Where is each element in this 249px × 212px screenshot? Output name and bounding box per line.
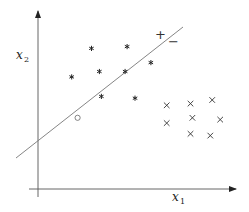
x-axis-label: x 1: [172, 190, 185, 206]
classifier-diagram: + − x 2 x 1: [0, 0, 249, 212]
x-axis-label-base: x: [172, 190, 179, 204]
positive-point-3: [69, 74, 74, 79]
negative-point-5: [217, 117, 223, 123]
query-point-0: [75, 115, 80, 120]
negative-point-4: [190, 115, 196, 121]
decision-boundary: [16, 27, 183, 158]
plot-canvas: + − x 2 x 1: [0, 0, 249, 212]
positive-point-6: [99, 94, 104, 99]
negative-point-7: [208, 133, 214, 139]
positive-side-label: +: [155, 27, 166, 42]
negative-point-3: [164, 120, 170, 126]
negative-point-6: [188, 131, 194, 137]
y-axis-label-subscript: 2: [24, 55, 29, 64]
negative-point-2: [209, 97, 215, 103]
negative-point-0: [164, 103, 170, 109]
positive-point-1: [125, 44, 130, 49]
x-axis-label-subscript: 1: [180, 197, 185, 206]
data-points: [69, 44, 223, 138]
y-axis-label-base: x: [16, 48, 23, 62]
positive-point-7: [133, 96, 138, 101]
positive-point-2: [149, 60, 154, 65]
y-axis-label: x 2: [16, 48, 29, 64]
negative-point-1: [188, 101, 194, 107]
positive-point-4: [97, 69, 102, 74]
negative-side-label: −: [168, 34, 179, 49]
positive-point-0: [89, 46, 94, 51]
